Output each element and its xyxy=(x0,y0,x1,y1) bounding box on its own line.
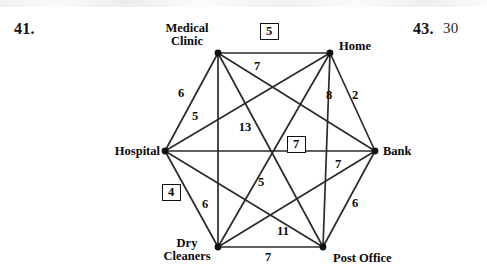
vertex-label-post-office: Post Office xyxy=(333,252,392,265)
vertex-label-dry-cleaners-line2: Cleaners xyxy=(156,250,218,263)
edge-weight-dry_cleaners-bank: 11 xyxy=(273,224,293,239)
vertex-label-medical-clinic-line2: Clinic xyxy=(154,35,220,48)
edge-weight-medical_clinic-dry_cleaners: 6 xyxy=(197,197,213,212)
edge-weight-post_office-hospital: 7 xyxy=(330,157,346,172)
graph-vertex-bank xyxy=(372,148,379,155)
edge-weight-home-post_office: 8 xyxy=(321,88,337,103)
edge-weight-post_office-dry_cleaners: 7 xyxy=(260,250,276,265)
vertex-label-dry-cleaners: Dry Cleaners xyxy=(156,237,218,263)
vertex-label-hospital: Hospital xyxy=(94,145,160,158)
weighted-graph-canvas xyxy=(0,0,487,275)
graph-vertex-hospital xyxy=(162,148,169,155)
graph-edge-home-post_office xyxy=(323,53,330,247)
edge-weight-bank-post_office: 6 xyxy=(347,196,363,211)
edge-weight-medical_clinic-bank: 7 xyxy=(249,59,265,74)
edge-weight-home-hospital: 5 xyxy=(187,109,203,124)
graph-vertex-home xyxy=(327,50,334,57)
edge-weight-home-dry_cleaners: 5 xyxy=(253,175,269,190)
edge-weight-medical_clinic-home: 5 xyxy=(260,23,279,40)
edge-layer xyxy=(165,53,375,247)
graph-vertex-medical_clinic xyxy=(215,50,222,57)
graph-edge-medical_clinic-post_office xyxy=(218,53,323,247)
edge-weight-dry_cleaners-hospital: 4 xyxy=(162,184,181,201)
graph-edge-hospital-medical_clinic xyxy=(165,53,218,151)
vertex-label-medical-clinic: Medical Clinic xyxy=(154,22,220,48)
graph-edge-post_office-hospital xyxy=(165,151,323,247)
edge-weight-medical_clinic-post_office: 13 xyxy=(235,120,255,135)
edge-weight-home-bank: 2 xyxy=(347,88,363,103)
vertex-label-home: Home xyxy=(339,40,371,53)
vertex-label-bank: Bank xyxy=(383,145,412,158)
edge-weight-hospital-bank: 7 xyxy=(287,136,306,153)
graph-vertex-post_office xyxy=(320,244,327,251)
worksheet-figure: 41. 43. 30 Medical Clinic Home Bank Post… xyxy=(0,0,487,275)
edge-weight-hospital-medical_clinic: 6 xyxy=(173,86,189,101)
